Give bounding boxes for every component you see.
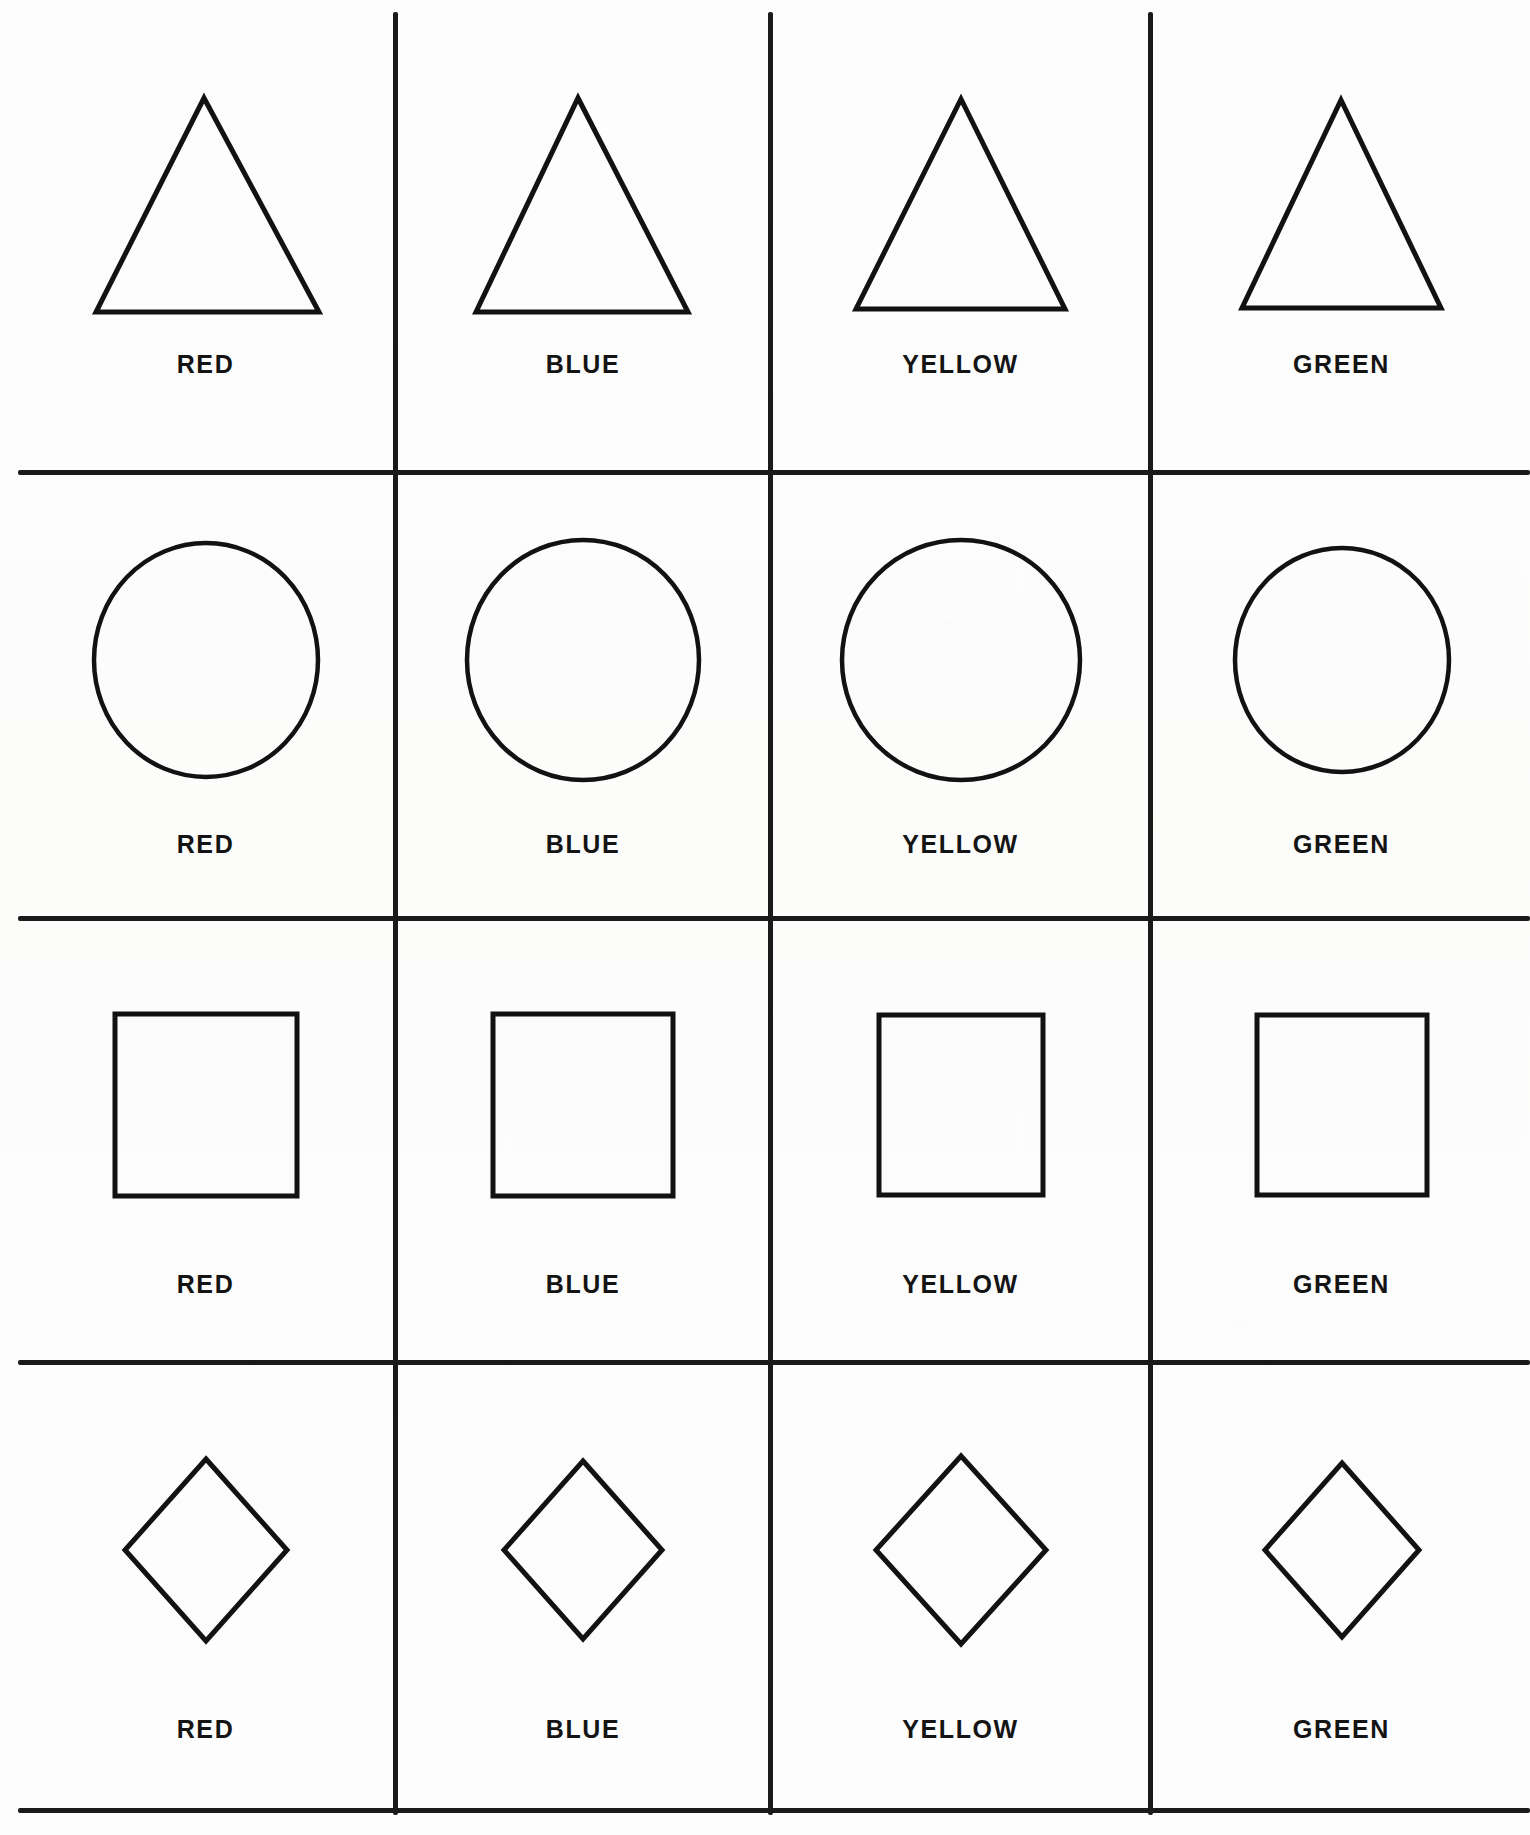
square-outline-icon <box>489 1010 677 1200</box>
card-label: BLUE <box>398 1715 768 1744</box>
circle-outline-icon <box>463 536 703 784</box>
diamond-outline-icon <box>1261 1459 1423 1641</box>
shape-slot <box>18 1385 393 1715</box>
square-outline-icon <box>875 1011 1047 1199</box>
card-cell-square-red[interactable]: RED <box>18 940 393 1340</box>
square-outline-icon <box>1253 1011 1431 1199</box>
shape-slot <box>398 490 768 830</box>
shape-slot <box>1153 940 1530 1270</box>
card-label: BLUE <box>398 1270 768 1299</box>
card-label: YELLOW <box>773 1270 1148 1299</box>
triangle-outline-icon <box>1239 94 1444 316</box>
triangle-outline-icon <box>91 90 321 320</box>
circle-outline-icon <box>838 536 1084 784</box>
flashcard-grid: RED BLUE YELLOW GREEN <box>0 0 1530 1835</box>
shape-slot <box>1153 1385 1530 1715</box>
card-cell-triangle-yellow[interactable]: YELLOW <box>773 60 1148 460</box>
card-label: RED <box>18 1715 393 1744</box>
card-cell-diamond-yellow[interactable]: YELLOW <box>773 1385 1148 1795</box>
card-cell-square-green[interactable]: GREEN <box>1153 940 1530 1340</box>
card-label: YELLOW <box>773 350 1148 379</box>
square-outline-icon <box>111 1010 301 1200</box>
card-label: RED <box>18 830 393 859</box>
sheet-bottom-rule <box>18 1808 1530 1813</box>
card-label: BLUE <box>398 830 768 859</box>
card-cell-diamond-red[interactable]: RED <box>18 1385 393 1795</box>
card-cell-circle-green[interactable]: GREEN <box>1153 490 1530 900</box>
card-label: GREEN <box>1153 350 1530 379</box>
shape-slot <box>1153 490 1530 830</box>
triangle-outline-icon <box>853 93 1068 318</box>
card-cell-circle-yellow[interactable]: YELLOW <box>773 490 1148 900</box>
diamond-outline-icon <box>872 1452 1050 1648</box>
shape-slot <box>398 60 768 350</box>
shape-slot <box>773 60 1148 350</box>
card-label: RED <box>18 350 393 379</box>
shape-slot <box>398 940 768 1270</box>
row-divider-2 <box>18 916 1530 921</box>
diamond-outline-icon <box>500 1457 666 1643</box>
shape-slot <box>773 1385 1148 1715</box>
circle-outline-icon <box>90 539 322 781</box>
card-cell-circle-blue[interactable]: BLUE <box>398 490 768 900</box>
shape-slot <box>18 490 393 830</box>
card-cell-square-blue[interactable]: BLUE <box>398 940 768 1340</box>
card-cell-diamond-green[interactable]: GREEN <box>1153 1385 1530 1795</box>
shape-slot <box>18 60 393 350</box>
card-label: GREEN <box>1153 1270 1530 1299</box>
card-cell-diamond-blue[interactable]: BLUE <box>398 1385 768 1795</box>
card-label: YELLOW <box>773 830 1148 859</box>
card-cell-triangle-red[interactable]: RED <box>18 60 393 460</box>
card-label: YELLOW <box>773 1715 1148 1744</box>
shape-slot <box>1153 60 1530 350</box>
circle-outline-icon <box>1231 544 1453 776</box>
card-cell-square-yellow[interactable]: YELLOW <box>773 940 1148 1340</box>
card-label: GREEN <box>1153 1715 1530 1744</box>
card-cell-circle-red[interactable]: RED <box>18 490 393 900</box>
card-cell-triangle-green[interactable]: GREEN <box>1153 60 1530 460</box>
row-divider-3 <box>18 1360 1530 1365</box>
diamond-outline-icon <box>121 1455 291 1645</box>
shape-slot <box>398 1385 768 1715</box>
shape-slot <box>773 490 1148 830</box>
shape-slot <box>18 940 393 1270</box>
card-label: RED <box>18 1270 393 1299</box>
row-divider-1 <box>18 470 1530 475</box>
card-cell-triangle-blue[interactable]: BLUE <box>398 60 768 460</box>
card-label: BLUE <box>398 350 768 379</box>
card-label: GREEN <box>1153 830 1530 859</box>
shape-slot <box>773 940 1148 1270</box>
triangle-outline-icon <box>473 90 693 320</box>
